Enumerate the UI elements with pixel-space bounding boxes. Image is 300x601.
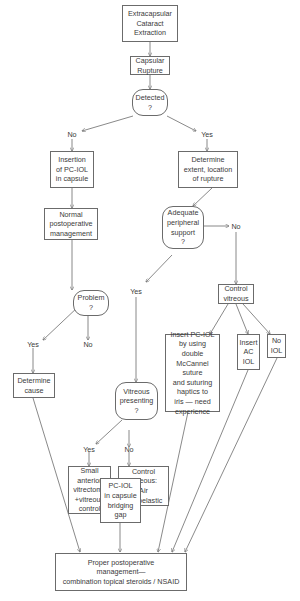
node-pc-iol-bridging-gap: PC-IOL in capsule bridging gap: [100, 478, 141, 523]
edge-label-detected-yes: Yes: [201, 130, 213, 139]
edge-label-support-yes: Yes: [130, 287, 142, 296]
edge-label-problem-no: No: [83, 340, 92, 349]
node-insertion-pc-iol: Insertion of PC-IOL in capsule: [50, 151, 94, 188]
node-determine-extent: Determine extent, location of rupture: [178, 151, 238, 188]
node-proper-postoperative-management: Proper postoperative management— combina…: [55, 553, 187, 591]
node-determine-cause: Determine cause: [13, 373, 55, 398]
node-no-iol: No IOL: [267, 334, 286, 358]
edge-label-vitreous-yes: Yes: [83, 445, 95, 454]
decision-vitreous-presenting: Vitreous presenting ?: [115, 382, 158, 420]
node-insert-pc-iol-mccannel-suture: Insert PC-IOL by using double McCannel s…: [165, 334, 220, 412]
decision-problem: Problem ?: [73, 290, 109, 316]
node-extracapsular-cataract-extraction: Extracapsular Cataract Extraction: [122, 5, 178, 42]
edge-label-problem-yes: Yes: [27, 340, 39, 349]
edge-label-detected-no: No: [67, 130, 76, 139]
flowchart-canvas: Extracapsular Cataract Extraction Capsul…: [0, 0, 300, 601]
node-normal-postoperative-management: Normal postoperative management: [44, 208, 98, 240]
node-capsular-rupture: Capsular Rupture: [130, 56, 170, 75]
decision-adequate-peripheral-support: Adequate peripheral support ?: [162, 206, 204, 249]
edge-label-support-no: No: [231, 222, 240, 231]
node-insert-ac-iol: Insert AC IOL: [237, 334, 260, 370]
node-control-vitreous: Control vitreous: [218, 284, 254, 304]
decision-detected: Detected ?: [132, 89, 168, 116]
edge-label-vitreous-no: No: [124, 445, 133, 454]
